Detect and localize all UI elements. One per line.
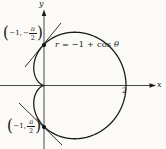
point-marker-top [42, 43, 46, 47]
x-axis-arrow-icon [150, 83, 157, 88]
fraction-denominator: 2 [31, 34, 35, 41]
pi-over-2-fraction: π 2 [29, 26, 36, 42]
equation-label: r = −1 + cos θ [55, 40, 119, 48]
paren-close: ) [35, 119, 41, 136]
coord-value: −1, [13, 123, 26, 130]
paren-open: ( [3, 26, 9, 43]
equation-body: = −1 + cos [59, 39, 114, 49]
fraction-denominator: 2 [29, 127, 33, 134]
point-label-top: ( −1, − π 2 ) [3, 26, 43, 42]
pi-over-2-fraction: π 2 [27, 119, 34, 135]
paren-open: ( [7, 119, 13, 136]
fraction-sign: − [23, 30, 29, 37]
x-tick-label-2: 2 [122, 87, 127, 95]
figure-canvas: r = −1 + cos θ x y 2 ( −1, − π 2 ) ( −1,… [0, 0, 166, 149]
point-label-bottom: ( −1, π 2 ) [7, 119, 41, 135]
coord-value: −1, [9, 30, 22, 37]
point-marker-bottom [42, 125, 46, 129]
y-axis-arrow-icon [42, 10, 47, 17]
paren-close: ) [37, 26, 43, 43]
equation-theta: θ [114, 39, 119, 49]
x-axis-label: x [157, 81, 162, 89]
y-axis-label: y [39, 0, 44, 8]
